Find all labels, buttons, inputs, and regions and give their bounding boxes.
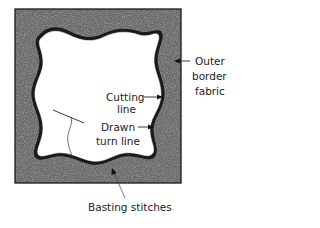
cutting-line-label-2: line bbox=[117, 103, 136, 115]
cutting-line-label-1: Cutting bbox=[106, 91, 144, 103]
outer-border-label-3: fabric bbox=[195, 85, 225, 97]
basting-stitches-label: Basting stitches bbox=[88, 201, 172, 213]
outer-border-label-1: Outer bbox=[195, 55, 225, 67]
turn-line-label-2: turn line bbox=[96, 135, 140, 147]
outer-border-label-2: border bbox=[192, 70, 227, 82]
turn-line-label-1: Drawn bbox=[101, 121, 135, 133]
